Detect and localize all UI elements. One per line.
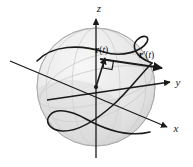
origin-dot [94,85,98,89]
position-vector-label: r(t) [95,45,108,56]
position-vector-label-paren-close: ) [105,45,108,56]
figure-root: z y x r(t) r′(t) [0,0,193,167]
tangent-vector-label-paren-close: ) [151,50,154,61]
tangent-vector-label: r′(t) [139,50,154,61]
sphere-group [18,28,162,156]
y-axis-label: y [175,76,181,88]
x-axis-label: x [173,122,179,134]
sphere-vector-diagram: z y x r(t) r′(t) [0,0,193,167]
z-axis-label: z [96,2,102,14]
